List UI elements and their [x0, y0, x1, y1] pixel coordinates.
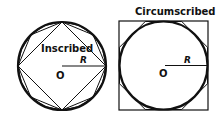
circumscribed-center-label: O	[159, 68, 168, 79]
circumscribed-diagram: Circumscribed R O	[119, 6, 216, 110]
inscribed-diagram: Inscribed R O	[18, 22, 106, 110]
circumscribed-radius-label: R	[184, 55, 191, 65]
inscribed-label: Inscribed	[41, 43, 93, 54]
polygon-circle-diagram: Inscribed R O Circumscribed R O	[0, 0, 222, 122]
inscribed-center-label: O	[56, 70, 65, 81]
inscribed-radius-label: R	[80, 55, 87, 65]
circumscribed-label: Circumscribed	[135, 6, 216, 17]
